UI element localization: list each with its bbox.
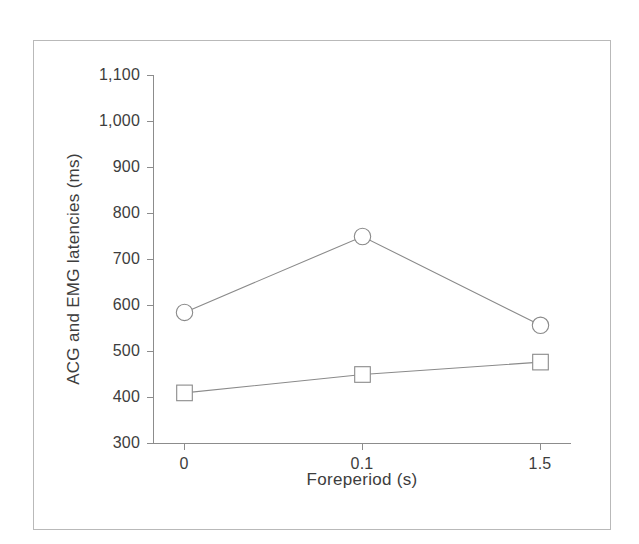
series-acg-line bbox=[185, 237, 541, 326]
x-axis-title: Foreperiod (s) bbox=[307, 470, 418, 490]
figure-root: 1,100 1,000 900 800 700 600 500 400 300 … bbox=[0, 0, 639, 544]
x-axis-ticks bbox=[185, 444, 541, 451]
y-axis-ticks bbox=[147, 76, 154, 444]
y-tick-label-1100: 1,100 bbox=[60, 66, 140, 84]
data-point-acg-2 bbox=[532, 317, 548, 333]
series-emg-latency bbox=[177, 354, 549, 400]
data-point-emg-2 bbox=[533, 354, 549, 370]
x-tick-label-0: 0 bbox=[179, 455, 188, 473]
data-point-acg-0 bbox=[176, 304, 192, 320]
y-tick-label-300: 300 bbox=[60, 434, 140, 452]
y-axis-title: ACG and EMG latencies (ms) bbox=[64, 109, 84, 429]
x-tick-label-1.5: 1.5 bbox=[529, 455, 552, 473]
data-point-emg-0 bbox=[177, 385, 193, 401]
data-point-acg-1 bbox=[354, 228, 370, 244]
series-acg-latency bbox=[176, 228, 548, 333]
data-point-emg-1 bbox=[355, 367, 371, 383]
